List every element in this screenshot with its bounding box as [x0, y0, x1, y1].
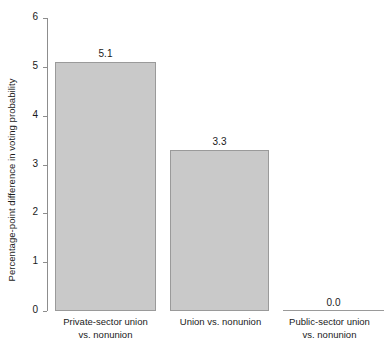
category-label-2-line-1: vs. nonunion: [268, 329, 391, 342]
y-tick-label-1: 1: [32, 255, 38, 266]
plot-area: [47, 18, 385, 311]
category-label-1: Union vs. nonunion: [155, 316, 286, 329]
y-tick-label-2: 2: [32, 206, 38, 217]
category-label-1-line-0: Union vs. nonunion: [155, 316, 286, 329]
category-label-2-line-0: Public-sector union: [268, 316, 391, 329]
bar-union[interactable]: [170, 150, 269, 311]
y-tick-mark-0: [43, 311, 47, 312]
category-label-2: Public-sector union vs. nonunion: [268, 316, 391, 341]
y-tick-label-0: 0: [32, 304, 38, 315]
bar-value-label-1: 3.3: [170, 136, 269, 147]
bar-value-label-0: 5.1: [55, 48, 156, 59]
category-label-0: Private-sector union vs. nonunion: [40, 316, 171, 341]
y-axis-title: Percentage-point difference in voting pr…: [0, 0, 22, 360]
bar-chart: Percentage-point difference in voting pr…: [0, 0, 391, 360]
bar-public-sector-union[interactable]: [283, 310, 384, 311]
y-tick-label-3: 3: [32, 158, 38, 169]
category-label-0-line-1: vs. nonunion: [40, 329, 171, 342]
category-label-0-line-0: Private-sector union: [40, 316, 171, 329]
bar-private-sector-union[interactable]: [55, 62, 156, 311]
y-tick-label-4: 4: [32, 109, 38, 120]
y-tick-label-6: 6: [32, 11, 38, 22]
bar-value-label-2: 0.0: [283, 297, 384, 308]
y-tick-label-5: 5: [32, 60, 38, 71]
